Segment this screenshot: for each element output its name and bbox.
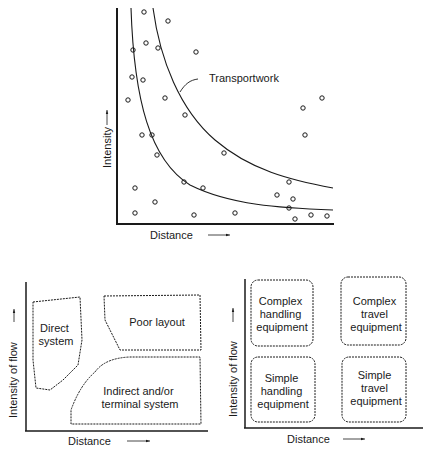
complex-travel-label: Complex travel equipment bbox=[350, 295, 401, 333]
data-point bbox=[153, 200, 157, 204]
data-point bbox=[309, 213, 313, 217]
data-point bbox=[183, 113, 187, 117]
data-points bbox=[126, 10, 329, 221]
transportwork-curve bbox=[153, 8, 333, 188]
data-point bbox=[126, 98, 130, 102]
annotation-leader bbox=[180, 79, 198, 92]
data-point bbox=[141, 78, 145, 82]
data-point bbox=[275, 193, 279, 197]
simple-handling-label: Simple handling equipment bbox=[257, 372, 308, 410]
figure-canvas: Transportwork Intensity Distance Direct … bbox=[0, 0, 430, 456]
data-point bbox=[192, 213, 196, 217]
data-point bbox=[140, 133, 144, 137]
top-scatter-chart: Transportwork Intensity Distance bbox=[101, 8, 334, 241]
complex-handling-label: Complex handling equipment bbox=[256, 295, 307, 333]
data-point bbox=[133, 211, 137, 215]
indirect-system-label: Indirect and/or terminal system bbox=[101, 385, 178, 410]
data-point bbox=[144, 41, 148, 45]
data-point bbox=[303, 133, 307, 137]
inner-curve bbox=[131, 8, 333, 210]
data-point bbox=[222, 151, 226, 155]
left-xlabel: Distance bbox=[68, 435, 111, 447]
data-point bbox=[233, 211, 237, 215]
data-point bbox=[156, 46, 160, 50]
data-point bbox=[325, 214, 329, 218]
bottom-left-diagram: Direct system Poor layout Indirect and/o… bbox=[7, 282, 208, 447]
data-point bbox=[166, 19, 170, 23]
data-point bbox=[320, 96, 324, 100]
data-point bbox=[142, 10, 146, 14]
right-xlabel: Distance bbox=[287, 433, 330, 445]
data-point bbox=[301, 106, 305, 110]
data-point bbox=[287, 180, 291, 184]
data-point bbox=[133, 186, 137, 190]
top-ylabel: Intensity bbox=[101, 127, 113, 168]
bottom-right-diagram: Complex handling equipment Complex trave… bbox=[227, 277, 423, 445]
top-xlabel: Distance bbox=[150, 229, 193, 241]
simple-travel-label: Simple travel equipment bbox=[350, 369, 401, 407]
poor-layout-label: Poor layout bbox=[129, 316, 185, 328]
direct-system-label: Direct system bbox=[39, 322, 74, 347]
data-point bbox=[293, 217, 297, 221]
right-ylabel: Intensity of flow bbox=[227, 341, 239, 417]
transportwork-label: Transportwork bbox=[209, 72, 279, 84]
left-ylabel: Intensity of flow bbox=[7, 342, 19, 418]
data-point bbox=[194, 50, 198, 54]
data-point bbox=[291, 197, 295, 201]
data-point bbox=[201, 186, 205, 190]
data-point bbox=[155, 153, 159, 157]
data-point bbox=[130, 75, 134, 79]
data-point bbox=[163, 96, 167, 100]
